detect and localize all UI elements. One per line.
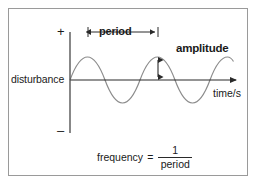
formula-numerator: 1	[172, 145, 178, 157]
frequency-formula: frequency = 1 period	[97, 145, 192, 169]
y-axis-negative-sign: –	[57, 124, 64, 137]
diagram-page: disturbance time/s + – period amplitude …	[0, 0, 259, 187]
formula-equals-sign: =	[147, 152, 153, 163]
amplitude-annotation-label: amplitude	[176, 43, 229, 55]
formula-denominator: period	[161, 158, 190, 170]
formula-quantity: frequency	[97, 152, 143, 163]
x-axis-label: time/s	[213, 88, 241, 99]
formula-fraction: 1 period	[158, 145, 192, 169]
y-axis-positive-sign: +	[57, 25, 65, 38]
period-annotation-label: period	[99, 26, 131, 37]
y-axis-label: disturbance	[11, 74, 64, 85]
